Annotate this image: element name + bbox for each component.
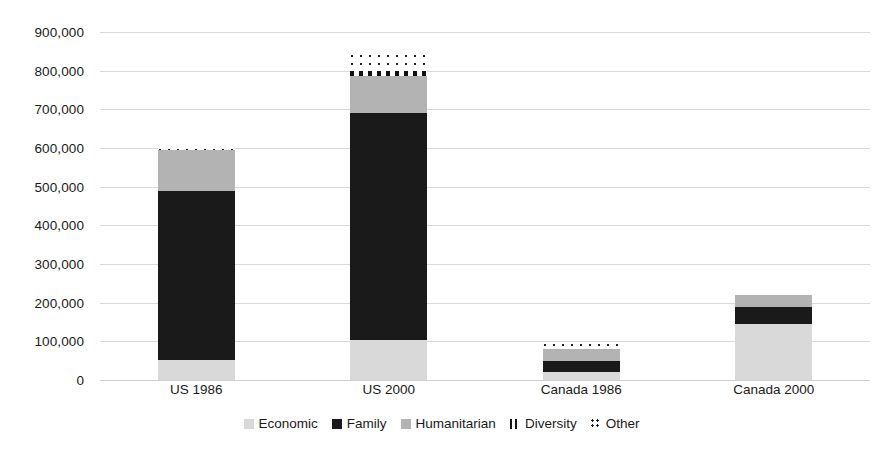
x-axis-tick-label: US 2000 (362, 382, 415, 397)
legend-item-label: Other (606, 416, 640, 431)
swatch-other-icon (591, 419, 601, 429)
bar-stack (350, 32, 427, 380)
bar-segment-family[interactable] (350, 113, 427, 340)
plot-area (100, 32, 870, 380)
bar-segment-economic[interactable] (735, 324, 812, 380)
bar-stack (543, 32, 620, 380)
bar-segment-other[interactable] (350, 54, 427, 71)
swatch-economic-icon (244, 419, 254, 429)
y-axis-tick-label: 0 (76, 373, 84, 388)
legend-item-family[interactable]: Family (332, 416, 387, 431)
swatch-humanitarian-icon (401, 419, 411, 429)
bar-group[interactable] (543, 32, 620, 380)
legend-item-label: Diversity (525, 416, 577, 431)
bar-stack (735, 32, 812, 380)
y-axis-tick-label: 600,000 (35, 141, 85, 156)
swatch-diversity-icon (510, 419, 520, 429)
y-axis-tick-label: 300,000 (35, 257, 85, 272)
y-axis-tick-label: 100,000 (35, 334, 85, 349)
bar-segment-economic[interactable] (543, 372, 620, 380)
x-axis: US 1986US 2000Canada 1986Canada 2000 (100, 382, 870, 408)
bar-group[interactable] (735, 32, 812, 380)
legend-item-other[interactable]: Other (591, 416, 640, 431)
bar-segment-humanitarian[interactable] (543, 349, 620, 361)
x-axis-tick-label: US 1986 (170, 382, 223, 397)
bar-segment-economic[interactable] (158, 360, 235, 380)
swatch-family-icon (332, 419, 342, 429)
bar-segment-family[interactable] (543, 361, 620, 373)
bar-group[interactable] (158, 32, 235, 380)
legend-item-label: Family (347, 416, 387, 431)
y-axis-tick-label: 200,000 (35, 295, 85, 310)
y-axis: 0100,000200,000300,000400,000500,000600,… (0, 32, 92, 380)
legend-item-economic[interactable]: Economic (244, 416, 318, 431)
bar-stack (158, 32, 235, 380)
y-axis-tick-label: 500,000 (35, 179, 85, 194)
bar-group[interactable] (350, 32, 427, 380)
x-axis-tick-label: Canada 2000 (733, 382, 814, 397)
bar-segment-other[interactable] (543, 343, 620, 349)
bar-segment-family[interactable] (735, 307, 812, 324)
x-axis-tick-label: Canada 1986 (541, 382, 622, 397)
legend: EconomicFamilyHumanitarianDiversityOther (0, 416, 883, 431)
bar-segment-family[interactable] (158, 191, 235, 360)
stacked-bar-chart: 0100,000200,000300,000400,000500,000600,… (0, 0, 883, 450)
legend-item-humanitarian[interactable]: Humanitarian (401, 416, 496, 431)
bar-segment-economic[interactable] (350, 340, 427, 380)
bar-segment-humanitarian[interactable] (735, 295, 812, 307)
y-axis-tick-label: 900,000 (35, 25, 85, 40)
y-axis-tick-label: 800,000 (35, 63, 85, 78)
gridline (100, 380, 870, 381)
legend-item-diversity[interactable]: Diversity (510, 416, 577, 431)
bar-segment-humanitarian[interactable] (158, 150, 235, 191)
bar-segment-diversity[interactable] (350, 71, 427, 76)
legend-item-label: Humanitarian (416, 416, 496, 431)
y-axis-tick-label: 400,000 (35, 218, 85, 233)
bar-groups (100, 32, 870, 380)
legend-item-label: Economic (259, 416, 318, 431)
y-axis-tick-label: 700,000 (35, 102, 85, 117)
bar-segment-humanitarian[interactable] (350, 76, 427, 114)
bar-segment-other[interactable] (158, 148, 235, 151)
